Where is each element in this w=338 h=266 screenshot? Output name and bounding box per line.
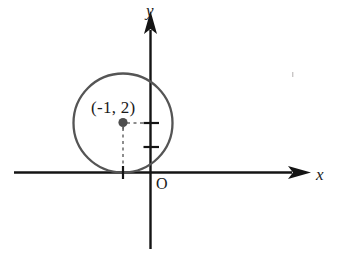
x-axis-label: x: [316, 166, 324, 183]
coordinate-figure: y x O (-1, 2): [0, 0, 338, 266]
center-point-marker: [118, 118, 127, 127]
figure-canvas: [0, 0, 338, 266]
scan-speck-artifact: [292, 72, 293, 77]
center-coordinate-label: (-1, 2): [91, 99, 136, 116]
origin-label: O: [156, 176, 168, 192]
y-axis-label: y: [146, 2, 154, 19]
